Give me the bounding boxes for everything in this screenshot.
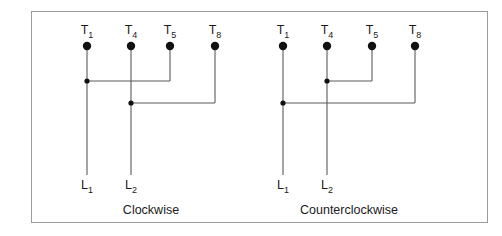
terminal-label-t1: T1	[81, 23, 94, 40]
diagram-clockwise	[83, 42, 219, 175]
terminal-label-t5: T5	[164, 23, 177, 40]
terminal-label-t8-base: T	[209, 23, 217, 37]
wiring-schematic	[0, 0, 502, 236]
lead-label-l2-ccw-sub: 2	[328, 185, 333, 195]
lead-label-l1-sub: 1	[88, 185, 93, 195]
lead-label-l2: L2	[125, 178, 137, 195]
junction-dot-clockwise-upper	[84, 78, 89, 83]
terminal-label-t1-sub: 1	[88, 30, 93, 40]
lead-label-l2-base: L	[125, 178, 132, 192]
terminal-label-t8-ccw-base: T	[409, 23, 417, 37]
terminal-label-t1-ccw: T1	[277, 23, 290, 40]
terminal-label-t8-sub: 8	[216, 30, 221, 40]
terminal-label-t8: T8	[209, 23, 222, 40]
junction-dot-counterclockwise-upper	[324, 78, 329, 83]
lead-label-l2-sub: 2	[132, 185, 137, 195]
terminal-label-t4-base: T	[125, 23, 133, 37]
terminal-label-t8-ccw-sub: 8	[416, 30, 421, 40]
terminal-label-t5-ccw: T5	[366, 23, 379, 40]
terminal-dot-t8	[211, 42, 219, 50]
terminal-dot-t8-ccw	[411, 42, 419, 50]
terminal-label-t5-ccw-sub: 5	[373, 30, 378, 40]
terminal-label-t5-sub: 5	[171, 30, 176, 40]
lead-label-l1-ccw: L1	[277, 178, 289, 195]
terminal-label-t1-ccw-sub: 1	[284, 30, 289, 40]
terminal-label-t1-ccw-base: T	[277, 23, 285, 37]
terminal-dot-t5-ccw	[368, 42, 376, 50]
terminal-dot-t1-ccw	[279, 42, 287, 50]
terminal-label-t4-ccw: T4	[321, 23, 334, 40]
terminal-dot-t4	[127, 42, 135, 50]
terminal-label-t1-base: T	[81, 23, 89, 37]
diagram-counterclockwise	[279, 42, 419, 175]
terminal-label-t5-base: T	[164, 23, 172, 37]
lead-label-l1-ccw-sub: 1	[284, 185, 289, 195]
terminal-label-t4-sub: 4	[132, 30, 137, 40]
lead-label-l2-ccw-base: L	[321, 178, 328, 192]
lead-label-l1-ccw-base: L	[277, 178, 284, 192]
terminal-label-t4: T4	[125, 23, 138, 40]
junction-dot-counterclockwise-lower	[280, 100, 285, 105]
terminal-label-t4-ccw-base: T	[321, 23, 329, 37]
terminal-dot-t1	[83, 42, 91, 50]
terminal-label-t4-ccw-sub: 4	[328, 30, 333, 40]
terminal-dot-t5	[166, 42, 174, 50]
wiring-diagram-figure: T1 T4 T5 T8 L1 L2 Clockwise T1 T4 T5 T8 …	[0, 0, 502, 236]
caption-counterclockwise: Counterclockwise	[300, 203, 398, 217]
lead-label-l2-ccw: L2	[321, 178, 333, 195]
junction-dot-clockwise-lower	[128, 100, 133, 105]
terminal-dot-t4-ccw	[323, 42, 331, 50]
lead-label-l1-base: L	[81, 178, 88, 192]
terminal-label-t5-ccw-base: T	[366, 23, 374, 37]
terminal-label-t8-ccw: T8	[409, 23, 422, 40]
caption-clockwise: Clockwise	[123, 203, 179, 217]
lead-label-l1: L1	[81, 178, 93, 195]
